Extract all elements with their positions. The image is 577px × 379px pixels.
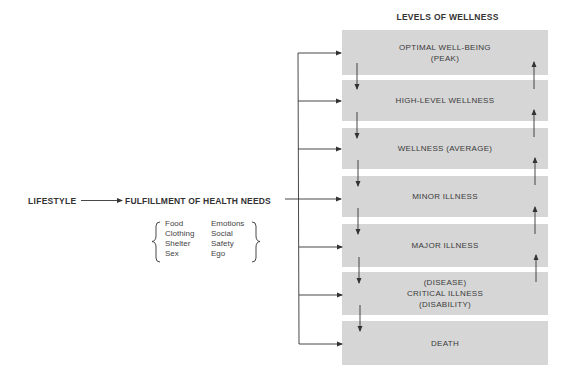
left-brace-icon bbox=[152, 222, 160, 262]
connector-lines bbox=[0, 0, 577, 379]
right-brace-icon bbox=[252, 222, 260, 262]
bus-line bbox=[298, 53, 299, 344]
